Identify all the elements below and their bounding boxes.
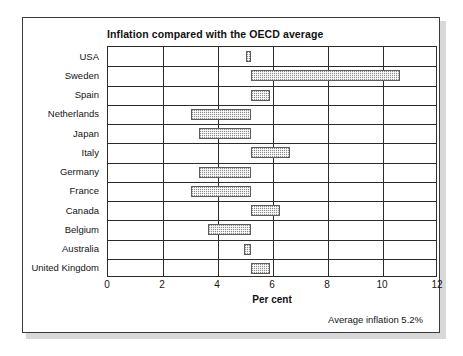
figure-frame: Inflation compared with the OECD average… (22, 17, 440, 333)
x-axis-title: Per cent (107, 294, 437, 305)
x-axis-tick-label: 10 (376, 279, 387, 290)
bars-layer (108, 47, 436, 276)
y-axis-label: Germany (60, 166, 99, 177)
bar (191, 186, 252, 197)
bar (251, 147, 290, 158)
x-axis-tick-label: 6 (269, 279, 275, 290)
bar (191, 109, 252, 120)
bar (251, 90, 270, 101)
bar (251, 205, 280, 216)
x-axis-tick-label: 0 (104, 279, 110, 290)
average-inflation-note: Average inflation 5.2% (328, 314, 423, 325)
plot-area (107, 46, 437, 277)
y-axis-label: USA (79, 50, 99, 61)
y-axis-label: Spain (75, 89, 99, 100)
bar (199, 128, 251, 139)
y-axis-label: Netherlands (48, 108, 99, 119)
y-axis-label: Canada (66, 204, 99, 215)
x-axis-tick-label: 8 (324, 279, 330, 290)
y-axis-label: Belgium (65, 223, 99, 234)
bar (251, 70, 400, 81)
y-axis-category-labels: USASwedenSpainNetherlandsJapanItalyGerma… (23, 46, 103, 277)
bar (208, 224, 251, 235)
bar (246, 51, 252, 62)
bar (251, 263, 270, 274)
y-axis-label: Japan (73, 127, 99, 138)
y-axis-label: Australia (62, 243, 99, 254)
x-axis-tick-labels: 024681012 (107, 279, 437, 295)
chart-title: Inflation compared with the OECD average (107, 28, 323, 40)
bar (244, 244, 251, 255)
bar (199, 167, 251, 178)
x-axis-tick-label: 2 (159, 279, 165, 290)
x-axis-tick-label: 4 (214, 279, 220, 290)
x-axis-tick-label: 12 (431, 279, 442, 290)
y-axis-label: United Kingdom (31, 262, 99, 273)
y-axis-label: Italy (82, 146, 99, 157)
y-axis-label: France (69, 185, 99, 196)
y-axis-label: Sweden (65, 69, 99, 80)
chart-figure: Inflation compared with the OECD average… (0, 0, 463, 356)
